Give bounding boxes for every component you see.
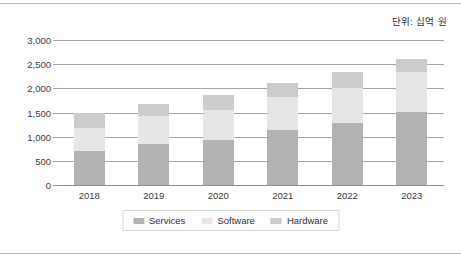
bar-segment-services[interactable] [267,130,298,185]
bar-segment-hardware[interactable] [138,104,169,116]
figure-top-rule [0,3,461,4]
bar-stack[interactable] [332,72,363,185]
chart-legend: ServicesSoftwareHardware [122,210,339,231]
y-axis-tick-label: 3,000 [27,35,51,46]
legend-label: Services [149,215,185,226]
bar-stack[interactable] [138,104,169,185]
bar-segment-software[interactable] [138,116,169,145]
x-axis-tick-label: 2019 [122,190,187,201]
legend-swatch-icon [133,218,144,224]
unit-note: 단위: 십억 원 [392,14,447,28]
bar-segment-software[interactable] [74,128,105,151]
bar-stack[interactable] [267,83,298,185]
legend-item-hardware[interactable]: Hardware [271,215,328,226]
bar-stack[interactable] [396,59,427,185]
bar-segment-software[interactable] [332,88,363,123]
legend-label: Software [217,215,255,226]
bar-segment-hardware[interactable] [396,59,427,72]
y-axis-tick-label: 0 [46,180,51,191]
bar-segment-software[interactable] [267,97,298,131]
bar-group: 2022 [315,40,380,185]
legend-item-software[interactable]: Software [201,215,255,226]
bar-segment-services[interactable] [332,123,363,185]
bar-segment-services[interactable] [74,151,105,185]
bar-stack[interactable] [203,95,234,185]
bar-group: 2018 [57,40,122,185]
bar-segment-hardware[interactable] [332,72,363,87]
x-axis-tick-label: 2022 [315,190,380,201]
bars-container: 201820192020202120222023 [57,40,444,185]
y-axis-tick-label: 2,000 [27,83,51,94]
legend-swatch-icon [271,218,282,224]
y-axis-tick-label: 1,500 [27,107,51,118]
bar-segment-hardware[interactable] [74,113,105,128]
x-axis-tick-label: 2021 [251,190,316,201]
x-axis-tick-label: 2023 [380,190,445,201]
legend-swatch-icon [201,218,212,224]
y-tick-mark [53,185,57,186]
bar-segment-hardware[interactable] [203,95,234,110]
y-axis-tick-label: 1,000 [27,131,51,142]
bar-segment-software[interactable] [396,72,427,112]
bar-group: 2019 [122,40,187,185]
y-axis-tick-label: 500 [35,155,51,166]
bar-segment-services[interactable] [203,140,234,185]
y-axis-tick-label: 2,500 [27,59,51,70]
legend-label: Hardware [287,215,328,226]
x-axis-tick-label: 2018 [57,190,122,201]
chart-figure: 단위: 십억 원 05001,0001,5002,0002,5003,000 2… [0,0,461,259]
bar-segment-services[interactable] [396,112,427,185]
figure-bottom-rule [0,253,461,254]
bar-group: 2023 [380,40,445,185]
x-axis-tick-label: 2020 [186,190,251,201]
bar-stack[interactable] [74,113,105,185]
x-axis-line [57,185,444,186]
bar-segment-software[interactable] [203,110,234,139]
bar-segment-services[interactable] [138,144,169,185]
legend-item-services[interactable]: Services [133,215,185,226]
bar-group: 2021 [251,40,316,185]
plot-area: 05001,0001,5002,0002,5003,000 2018201920… [57,40,444,185]
bar-segment-hardware[interactable] [267,83,298,97]
bar-group: 2020 [186,40,251,185]
